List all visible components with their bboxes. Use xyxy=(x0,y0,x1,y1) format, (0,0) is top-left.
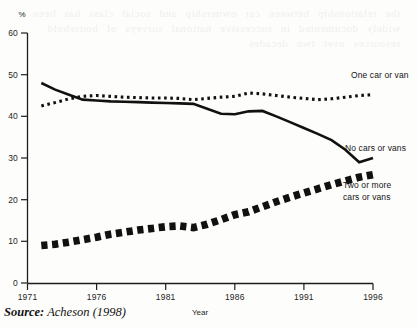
x-tick-label-1986: 1986 xyxy=(225,292,245,302)
y-tick-label-50: 50 xyxy=(8,70,18,80)
x-tick-label-1976: 1976 xyxy=(87,292,107,302)
y-tick-label-20: 20 xyxy=(8,195,18,205)
series-labels: One car or van No cars or vans Two or mo… xyxy=(343,70,409,202)
y-axis-unit-label: % xyxy=(18,10,25,19)
y-tick-label-10: 10 xyxy=(8,236,18,246)
source-prefix: Source: xyxy=(4,305,44,319)
y-tick-label-0: 0 xyxy=(13,278,18,288)
series-group xyxy=(41,83,373,246)
source-text: Acheson (1998) xyxy=(47,305,126,319)
figure-car-ownership-chart: the relationship between car ownership a… xyxy=(0,0,418,327)
source-note: Source: Acheson (1998) xyxy=(4,305,126,320)
x-tick-label-1991: 1991 xyxy=(294,292,314,302)
series-label-two-or-more-line2: cars or vans xyxy=(343,192,391,202)
series-label-no-cars-or-vans: No cars or vans xyxy=(345,143,406,153)
x-axis-title: Year xyxy=(192,308,209,317)
series-label-two-or-more-line1: Two or more xyxy=(343,180,392,190)
x-tick-label-1971: 1971 xyxy=(18,292,38,302)
series-line-two-or-more-cars-or-vans xyxy=(41,175,373,246)
y-axis-ticks xyxy=(21,33,28,283)
y-tick-label-40: 40 xyxy=(8,111,18,121)
series-label-one-car-or-van: One car or van xyxy=(351,70,409,80)
x-tick-label-1981: 1981 xyxy=(156,292,176,302)
x-tick-label-1996: 1996 xyxy=(363,292,383,302)
y-tick-label-60: 60 xyxy=(8,28,18,38)
y-axis: 60 50 40 30 20 10 0 % xyxy=(8,10,27,288)
x-axis-ticks xyxy=(28,284,374,291)
chart-plot-area: 60 50 40 30 20 10 0 % 1971 1976 1981 198… xyxy=(0,0,418,327)
y-tick-label-30: 30 xyxy=(8,153,18,163)
